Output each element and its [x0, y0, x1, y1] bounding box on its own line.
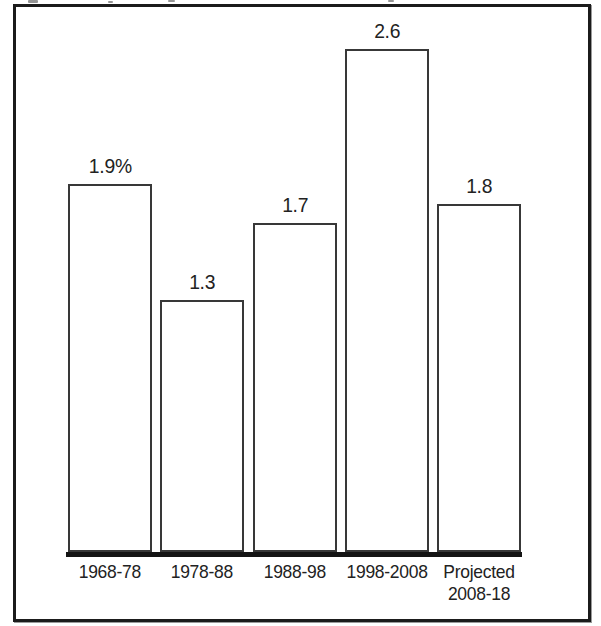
- bar: [345, 49, 429, 552]
- bar: [68, 184, 152, 552]
- x-axis-category-text: 1988-98: [264, 561, 326, 583]
- bar: [437, 204, 521, 552]
- x-axis-category-label: Projected 2008-18: [431, 561, 527, 605]
- x-axis-category-label: 1998-2008: [339, 561, 435, 583]
- bar-value-text: 1.8: [466, 173, 492, 199]
- bar-value-text: 1.3: [189, 269, 215, 295]
- bar-value-label: 1.7: [235, 192, 355, 218]
- x-axis-category-label: 1988-98: [247, 561, 343, 583]
- bar-value-label: 1.8: [419, 173, 539, 199]
- x-axis-category-label: 1968-78: [62, 561, 158, 583]
- x-axis-category-text: 1968-78: [79, 561, 141, 583]
- bar-value-text: 1.7: [282, 192, 308, 218]
- plot-area: 1.9%1968-781.31978-881.71988-982.61998-2…: [0, 0, 601, 626]
- bar-value-label: 1.3: [142, 269, 262, 295]
- bar-value-label: 1.9%: [50, 153, 170, 179]
- x-axis-category-text: Projected 2008-18: [435, 561, 523, 605]
- x-axis-line: [66, 552, 522, 557]
- x-axis-category-text: 1978-88: [171, 561, 233, 583]
- x-axis-category-text: 1998-2008: [346, 561, 427, 583]
- bar: [160, 300, 244, 552]
- bar-value-label: 2.6: [327, 18, 447, 44]
- bar: [253, 223, 337, 552]
- bar-value-text: 2.6: [374, 18, 400, 44]
- x-axis-category-label: 1978-88: [154, 561, 250, 583]
- bar-chart-figure: 1.9%1968-781.31978-881.71988-982.61998-2…: [0, 0, 601, 626]
- bar-value-text: 1.9%: [89, 153, 132, 179]
